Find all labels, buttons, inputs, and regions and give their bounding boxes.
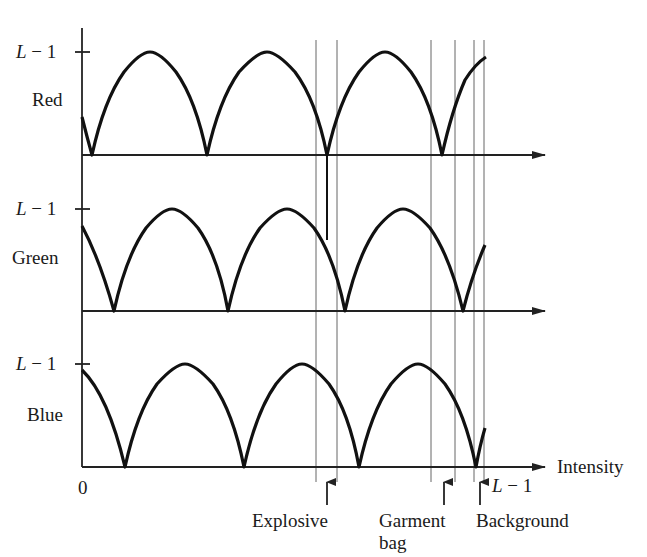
pseudocolor-diagram: L − 1 Red L − 1 Green L − 1 Blue Intensi… bbox=[0, 0, 647, 557]
background-label: Background bbox=[476, 510, 569, 531]
red-max-label: L − 1 bbox=[15, 41, 56, 62]
origin-label: 0 bbox=[78, 477, 88, 498]
red-channel-label: Red bbox=[32, 89, 63, 110]
blue-panel: L − 1 Blue bbox=[15, 353, 545, 467]
explosive-label: Explosive bbox=[252, 510, 328, 531]
green-channel-label: Green bbox=[12, 247, 59, 268]
red-transfer-curve bbox=[82, 52, 486, 155]
x-max-label: L − 1 bbox=[491, 475, 532, 496]
red-panel: L − 1 Red bbox=[15, 41, 545, 155]
garment-label: Garment bbox=[379, 510, 446, 531]
garment-label-line2: bag bbox=[379, 532, 407, 553]
blue-channel-label: Blue bbox=[27, 404, 63, 425]
x-axis-label: Intensity bbox=[557, 456, 624, 477]
green-max-label: L − 1 bbox=[15, 198, 56, 219]
blue-max-label: L − 1 bbox=[15, 353, 56, 374]
blue-transfer-curve bbox=[82, 364, 485, 467]
green-panel: L − 1 Green bbox=[12, 198, 545, 311]
green-transfer-curve bbox=[82, 209, 485, 311]
